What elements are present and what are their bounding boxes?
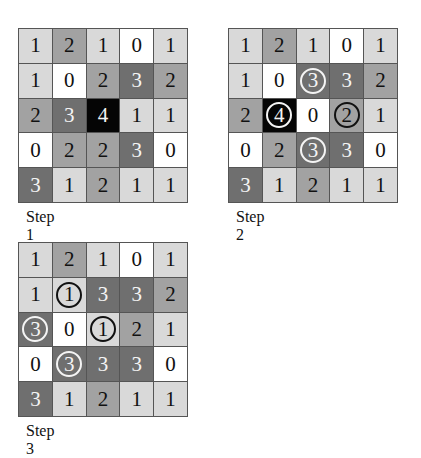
cell-value: 0 bbox=[165, 138, 176, 163]
cell-value: 0 bbox=[30, 138, 41, 163]
grid-cell: 1 bbox=[154, 313, 187, 347]
grid-cell: 1 bbox=[263, 168, 296, 202]
cell-value: 2 bbox=[240, 103, 251, 128]
cell-value: 1 bbox=[165, 173, 176, 198]
cell-value: 1 bbox=[30, 247, 41, 272]
grid-cell: 2 bbox=[297, 168, 330, 202]
grid-cell: 1 bbox=[87, 29, 120, 63]
grid-cell: 3 bbox=[229, 168, 262, 202]
grid-cell: 2 bbox=[229, 99, 262, 133]
cell-value: 1 bbox=[98, 317, 109, 342]
grid-cell: 1 bbox=[120, 99, 153, 133]
grid-cell: 0 bbox=[19, 347, 52, 381]
grid-cell: 1 bbox=[364, 29, 397, 63]
grid-cell: 2 bbox=[263, 29, 296, 63]
cell-value: 1 bbox=[165, 247, 176, 272]
grid-cell: 1 bbox=[330, 168, 363, 202]
cell-value: 1 bbox=[165, 317, 176, 342]
cell-value: 0 bbox=[30, 352, 41, 377]
cell-value: 3 bbox=[98, 282, 109, 307]
grid-step-2: 1210110332240210233031211 bbox=[228, 28, 398, 203]
cell-value: 2 bbox=[342, 103, 353, 128]
cell-value: 0 bbox=[308, 103, 319, 128]
grid-cell: 3 bbox=[297, 64, 330, 98]
grid-cell: 1 bbox=[53, 382, 86, 416]
cell-value: 0 bbox=[165, 352, 176, 377]
cell-value: 3 bbox=[132, 138, 143, 163]
cell-value: 3 bbox=[30, 387, 41, 412]
grid-cell: 1 bbox=[19, 64, 52, 98]
grid-cell: 1 bbox=[19, 243, 52, 277]
grid-cell: 1 bbox=[120, 382, 153, 416]
grid-cell: 3 bbox=[297, 133, 330, 167]
cell-value: 1 bbox=[30, 68, 41, 93]
grid-step-1: 1210110232234110223031211 bbox=[18, 28, 188, 203]
grid-cell: 2 bbox=[53, 133, 86, 167]
cell-value: 1 bbox=[132, 173, 143, 198]
grid-cell: 4 bbox=[263, 99, 296, 133]
grid-cell: 0 bbox=[229, 133, 262, 167]
cell-value: 2 bbox=[165, 68, 176, 93]
cell-value: 0 bbox=[132, 247, 143, 272]
cell-value: 1 bbox=[375, 103, 386, 128]
cell-value: 2 bbox=[375, 68, 386, 93]
grid-cell: 0 bbox=[120, 29, 153, 63]
cell-value: 3 bbox=[98, 352, 109, 377]
cell-value: 2 bbox=[308, 173, 319, 198]
cell-value: 1 bbox=[98, 33, 109, 58]
cell-value: 2 bbox=[64, 247, 75, 272]
grid-cell: 0 bbox=[263, 64, 296, 98]
grid-cell: 0 bbox=[297, 99, 330, 133]
cell-value: 0 bbox=[274, 68, 285, 93]
cell-value: 3 bbox=[30, 173, 41, 198]
grid-cell: 3 bbox=[19, 168, 52, 202]
cell-value: 2 bbox=[165, 282, 176, 307]
grid-cell: 3 bbox=[120, 133, 153, 167]
grid-cell: 1 bbox=[229, 29, 262, 63]
step-3-label: Step 3 bbox=[26, 422, 54, 458]
grid-cell: 2 bbox=[53, 29, 86, 63]
grid-cell: 2 bbox=[19, 99, 52, 133]
grid-cell: 2 bbox=[263, 133, 296, 167]
cell-value: 0 bbox=[64, 317, 75, 342]
grid-cell: 1 bbox=[154, 29, 187, 63]
cell-value: 3 bbox=[64, 352, 75, 377]
grid-cell: 1 bbox=[120, 168, 153, 202]
cell-value: 2 bbox=[98, 68, 109, 93]
cell-value: 3 bbox=[342, 68, 353, 93]
cell-value: 2 bbox=[132, 317, 143, 342]
cell-value: 0 bbox=[132, 33, 143, 58]
cell-value: 0 bbox=[375, 138, 386, 163]
grid-cell: 3 bbox=[330, 133, 363, 167]
cell-value: 1 bbox=[64, 282, 75, 307]
grid-cell: 3 bbox=[87, 347, 120, 381]
grid-cell: 2 bbox=[330, 99, 363, 133]
grid-cell: 1 bbox=[297, 29, 330, 63]
grid-cell: 1 bbox=[154, 168, 187, 202]
grid-cell: 0 bbox=[154, 347, 187, 381]
grid-cell: 0 bbox=[19, 133, 52, 167]
grid-cell: 3 bbox=[53, 347, 86, 381]
cell-value: 2 bbox=[64, 33, 75, 58]
cell-value: 1 bbox=[375, 33, 386, 58]
cell-value: 1 bbox=[98, 247, 109, 272]
cell-value: 1 bbox=[240, 33, 251, 58]
grid-cell: 0 bbox=[154, 133, 187, 167]
cell-value: 3 bbox=[30, 317, 41, 342]
cell-value: 1 bbox=[64, 173, 75, 198]
cell-value: 2 bbox=[274, 138, 285, 163]
grid-cell: 2 bbox=[154, 64, 187, 98]
cell-value: 2 bbox=[98, 138, 109, 163]
grid-cell: 0 bbox=[120, 243, 153, 277]
grid-cell: 1 bbox=[154, 382, 187, 416]
cell-value: 1 bbox=[274, 173, 285, 198]
cell-value: 3 bbox=[132, 68, 143, 93]
grid-cell: 1 bbox=[87, 243, 120, 277]
grid-cell: 1 bbox=[53, 168, 86, 202]
grid-cell: 2 bbox=[87, 168, 120, 202]
cell-value: 3 bbox=[308, 138, 319, 163]
grid-cell: 2 bbox=[364, 64, 397, 98]
grid-cell: 3 bbox=[120, 347, 153, 381]
grid-cell: 1 bbox=[53, 278, 86, 312]
grid-cell: 3 bbox=[87, 278, 120, 312]
